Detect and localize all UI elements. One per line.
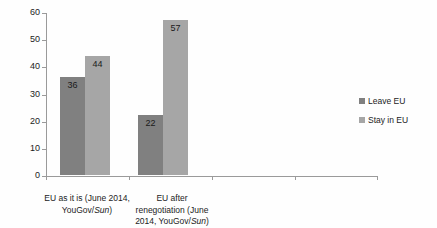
bar-stay-eu-as-it-is: 44 — [85, 56, 110, 176]
legend-item-leave-eu[interactable]: Leave EU — [359, 96, 435, 106]
x-tick-4 — [377, 176, 378, 180]
bar-value-label: 57 — [163, 23, 188, 33]
y-tick-label-30: 30 — [30, 89, 40, 100]
category-2-line-3c: ) — [206, 216, 209, 226]
x-category-label-2: EU after renegotiation (June 2014, YouGo… — [117, 193, 227, 228]
bar-value-label: 44 — [85, 59, 110, 69]
x-tick-0 — [46, 176, 47, 180]
bar-value-label: 22 — [138, 118, 163, 128]
category-2-line-3a: 2014, YouGov/ — [135, 216, 191, 226]
bar-leave-eu-as-it-is: 36 — [60, 77, 85, 175]
y-axis-line — [46, 13, 47, 177]
y-tick-label-0: 0 — [35, 170, 40, 181]
y-tick-label-40: 40 — [30, 61, 40, 72]
bar-value-label: 36 — [60, 80, 85, 90]
legend-label-leave-eu: Leave EU — [368, 96, 405, 106]
plot-area: 60 50 40 30 20 10 0 — [46, 13, 378, 176]
chart-legend: Leave EU Stay in EU — [359, 96, 435, 134]
y-tick-label-60: 60 — [30, 7, 40, 18]
y-tick-label-10: 10 — [30, 143, 40, 154]
category-1-source-italic: Sun — [94, 205, 109, 215]
y-tick-label-20: 20 — [30, 116, 40, 127]
x-tick-1 — [129, 176, 130, 180]
legend-swatch-leave-eu — [359, 98, 365, 104]
x-tick-3 — [295, 176, 296, 180]
category-1-line-2c: ) — [109, 205, 112, 215]
category-2-line-2: renegotiation (June — [136, 205, 209, 215]
legend-item-stay-in-eu[interactable]: Stay in EU — [359, 115, 435, 125]
bar-leave-eu-after-renegotiation: 22 — [138, 115, 163, 175]
category-1-line-2a: YouGov/ — [62, 205, 94, 215]
bar-chart: Voting intention (in %) 60 50 40 30 20 1… — [0, 0, 437, 228]
category-2-source-italic: Sun — [191, 216, 206, 226]
legend-swatch-stay-in-eu — [359, 117, 365, 123]
x-tick-2 — [212, 176, 213, 180]
legend-label-stay-in-eu: Stay in EU — [368, 115, 408, 125]
category-2-line-1: EU after — [156, 193, 187, 203]
bar-stay-eu-after-renegotiation: 57 — [163, 20, 188, 175]
y-tick-label-50: 50 — [30, 34, 40, 45]
